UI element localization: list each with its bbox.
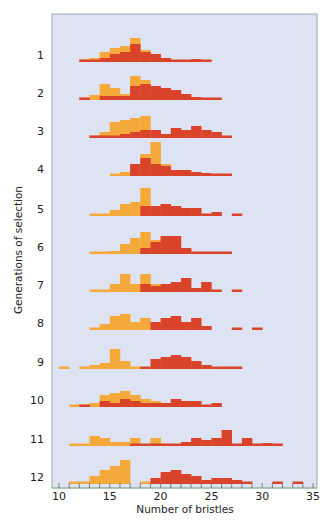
high-line-bar: [140, 367, 150, 370]
high-line-bar: [222, 367, 232, 370]
high-line-bar: [110, 136, 120, 139]
high-line-bar: [201, 365, 211, 369]
high-line-bar: [140, 130, 150, 138]
high-line-bar: [272, 444, 282, 447]
low-line-bar: [110, 442, 120, 446]
y-tick-label: 3: [37, 125, 44, 138]
high-line-bar: [252, 444, 262, 447]
low-line-bar: [110, 284, 120, 292]
y-tick-label: 8: [37, 317, 44, 330]
high-line-bar: [242, 482, 252, 485]
x-tick-label: 35: [306, 490, 320, 503]
low-line-bar: [110, 251, 120, 254]
x-tick-label: 20: [154, 490, 168, 503]
low-line-bar: [69, 482, 79, 485]
low-line-bar: [100, 470, 110, 484]
high-line-bar: [120, 96, 130, 100]
high-line-bar: [161, 284, 171, 292]
high-line-bar: [201, 480, 211, 484]
low-line-bar: [130, 284, 140, 292]
low-line-bar: [100, 438, 110, 446]
high-line-bar: [242, 438, 252, 446]
high-line-bar: [201, 130, 211, 138]
low-line-bar: [120, 442, 130, 446]
high-line-bar: [272, 482, 282, 485]
high-line-bar: [171, 282, 181, 292]
high-line-bar: [201, 282, 211, 292]
high-line-bar: [161, 166, 171, 176]
high-line-bar: [181, 474, 191, 484]
low-line-bar: [120, 172, 130, 176]
high-line-bar: [171, 236, 181, 254]
low-line-bar: [110, 316, 120, 330]
high-line-bar: [171, 60, 181, 63]
high-line-bar: [232, 480, 242, 484]
high-line-bar: [130, 444, 140, 447]
low-line-bar: [120, 244, 130, 254]
high-line-bar: [150, 322, 160, 330]
high-line-bar: [161, 204, 171, 216]
low-line-bar: [120, 361, 130, 369]
high-line-bar: [140, 248, 150, 254]
high-line-bar: [130, 401, 140, 407]
x-tick-label: 10: [52, 490, 66, 503]
high-line-bar: [211, 212, 221, 216]
x-tick-label: 15: [103, 490, 117, 503]
high-line-bar: [140, 284, 150, 292]
high-line-bar: [211, 252, 221, 255]
high-line-bar: [110, 54, 120, 62]
high-line-bar: [120, 52, 130, 62]
low-line-bar: [89, 365, 99, 369]
high-line-bar: [110, 403, 120, 407]
high-line-bar: [211, 132, 221, 138]
high-line-bar: [222, 478, 232, 484]
low-line-bar: [110, 466, 120, 484]
high-line-bar: [293, 482, 303, 485]
high-line-bar: [191, 476, 201, 484]
high-line-bar: [201, 440, 211, 446]
high-line-bar: [191, 208, 201, 216]
high-line-bar: [201, 326, 211, 330]
high-line-bar: [171, 355, 181, 369]
x-axis-title: Number of bristles: [136, 503, 233, 515]
low-line-bar: [89, 476, 99, 484]
high-line-bar: [232, 290, 242, 293]
low-line-bar: [59, 367, 69, 370]
high-line-bar: [191, 361, 201, 369]
high-line-bar: [150, 286, 160, 292]
high-line-bar: [191, 59, 201, 62]
high-line-bar: [181, 322, 191, 330]
high-line-bar: [191, 252, 201, 255]
low-line-bar: [69, 405, 79, 408]
y-tick-label: 10: [30, 394, 44, 407]
high-line-bar: [191, 438, 201, 446]
high-line-bar: [140, 84, 150, 100]
high-line-bar: [171, 170, 181, 176]
high-line-bar: [181, 94, 191, 100]
high-line-bar: [140, 206, 150, 216]
high-line-bar: [161, 357, 171, 369]
high-line-bar: [181, 208, 191, 216]
high-line-bar: [161, 236, 171, 254]
high-line-bar: [110, 96, 120, 100]
high-line-bar: [201, 60, 211, 63]
y-tick-label: 9: [37, 356, 44, 369]
high-line-bar: [181, 442, 191, 446]
high-line-bar: [100, 401, 110, 407]
low-line-bar: [110, 349, 120, 369]
high-line-bar: [150, 86, 160, 100]
high-line-bar: [252, 328, 262, 331]
high-line-bar: [140, 52, 150, 62]
high-line-bar: [211, 98, 221, 101]
low-line-bar: [100, 290, 110, 293]
low-line-bar: [130, 367, 140, 370]
high-line-bar: [150, 242, 160, 254]
y-tick-label: 2: [37, 87, 44, 100]
low-line-bar: [110, 174, 120, 177]
y-tick-label: 7: [37, 279, 44, 292]
high-line-bar: [211, 367, 221, 370]
low-line-bar: [100, 324, 110, 330]
high-line-bar: [79, 405, 89, 408]
low-line-bar: [110, 210, 120, 216]
high-line-bar: [181, 60, 191, 63]
